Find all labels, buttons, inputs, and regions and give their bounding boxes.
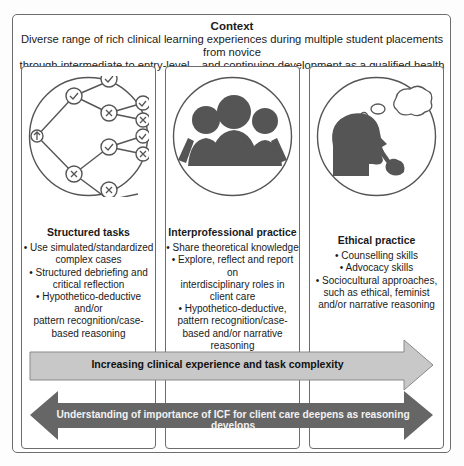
understanding-arrow-label: Understanding of importance of ICF for c… [50,409,416,431]
arrows-layer [0,0,464,466]
progress-arrow-label: Increasing clinical experience and task … [30,358,405,370]
